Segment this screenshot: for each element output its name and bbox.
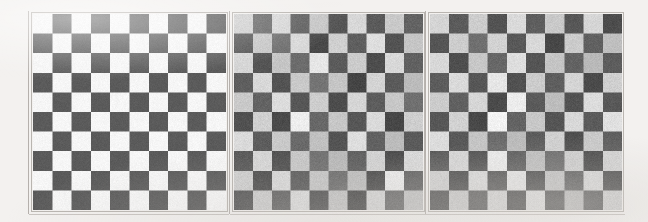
checkerboard-canvas-noisy-a (234, 14, 423, 210)
panel-edge-line-left (425, 11, 426, 214)
checkerboard-panel-clean (33, 14, 226, 210)
panel-edge-line-left (229, 11, 230, 214)
figure-container (0, 0, 648, 222)
panel-edge-line-bottom (29, 214, 229, 215)
panel-edge-line-left (28, 11, 29, 214)
checkerboard-canvas-noisy-b (430, 14, 622, 210)
checkerboard-panel-noisy-b (430, 14, 622, 210)
panel-edge-line-bottom (230, 214, 426, 215)
panel-edge-line-bottom (426, 214, 625, 215)
checkerboard-canvas-clean (33, 14, 226, 210)
checkerboard-panel-noisy-a (234, 14, 423, 210)
